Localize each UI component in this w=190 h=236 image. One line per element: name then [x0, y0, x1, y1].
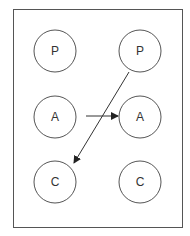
node-p-right: P [119, 30, 161, 72]
node-c-left: C [34, 161, 76, 203]
node-p-left: P [34, 30, 76, 72]
diagram-canvas: PPAACC [0, 0, 190, 236]
node-a-left: A [34, 96, 76, 138]
node-label: C [51, 175, 60, 189]
node-label: A [51, 110, 59, 124]
node-label: P [136, 44, 144, 58]
node-a-right: A [119, 96, 161, 138]
node-label: A [136, 110, 144, 124]
node-c-right: C [119, 161, 161, 203]
node-label: C [136, 175, 145, 189]
node-label: P [51, 44, 59, 58]
